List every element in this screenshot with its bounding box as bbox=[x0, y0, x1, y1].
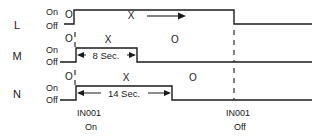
signal-l-mid-mark: X bbox=[128, 10, 135, 21]
signal-l-arrow-head-icon bbox=[178, 13, 186, 20]
waveform-l bbox=[64, 10, 312, 24]
signal-n-off-label: Off bbox=[46, 95, 58, 105]
event-start-name: IN001 bbox=[77, 108, 101, 118]
signal-l-start-mark: O bbox=[65, 9, 73, 20]
signal-name-l: L bbox=[14, 19, 20, 31]
signal-l-off-label: Off bbox=[46, 21, 58, 31]
event-end-name: IN001 bbox=[226, 108, 250, 118]
signal-n-on-label: On bbox=[46, 83, 58, 93]
signal-name-n: N bbox=[13, 88, 21, 100]
signal-n-end-mark: O bbox=[189, 72, 197, 83]
signal-n-dimension-arrow-left-icon bbox=[77, 90, 84, 96]
signal-m-start-mark: O bbox=[65, 33, 73, 44]
signal-m-off-label: Off bbox=[46, 57, 58, 67]
signal-name-m: M bbox=[12, 50, 21, 62]
signal-m-mid-mark: X bbox=[105, 34, 112, 45]
event-end-state: Off bbox=[234, 122, 246, 132]
signal-m-on-label: On bbox=[46, 45, 58, 55]
signal-m-duration: 8 Sec. bbox=[93, 50, 120, 61]
signal-n-start-mark: O bbox=[65, 71, 73, 82]
signal-n-mid-mark: X bbox=[123, 72, 130, 83]
signal-m-end-mark: O bbox=[171, 34, 179, 45]
timing-diagram-figure: L On Off O X M On Off O X O 8 Sec. N On … bbox=[0, 0, 319, 136]
event-start-state: On bbox=[85, 122, 97, 132]
timing-diagram-svg: L On Off O X M On Off O X O 8 Sec. N On … bbox=[0, 0, 319, 136]
signal-n-dimension-arrow-right-icon bbox=[164, 90, 171, 96]
signal-m-dimension-arrow-left-icon bbox=[77, 52, 84, 58]
signal-m-dimension-arrow-right-icon bbox=[129, 52, 136, 58]
signal-l-on-label: On bbox=[46, 7, 58, 17]
signal-n-duration: 14 Sec. bbox=[108, 88, 140, 99]
